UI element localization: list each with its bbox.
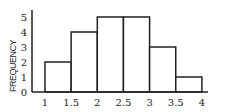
y-tick-label: 5 [21, 12, 27, 23]
x-tick-label: 1.5 [63, 97, 79, 108]
histogram-bar [45, 62, 71, 92]
y-tick-label: 4 [21, 27, 27, 38]
x-tick-label: 2.5 [115, 97, 131, 108]
y-tick-labels: 012345 [21, 12, 27, 98]
x-tick-labels: 11.522.533.54 [42, 97, 205, 108]
y-tick-label: 2 [21, 57, 27, 68]
histogram-bar [123, 17, 149, 92]
y-tick-label: 1 [21, 72, 27, 83]
x-tick-label: 4 [199, 97, 205, 108]
x-tick-label: 3.5 [168, 97, 184, 108]
y-tick-label: 3 [21, 42, 27, 53]
histogram-chart: 012345 11.522.533.54 FREQUENCY [0, 0, 226, 112]
x-tick-label: 3 [146, 97, 152, 108]
histogram-bar [176, 77, 202, 92]
bars [45, 17, 202, 92]
y-axis-label: FREQUENCY [8, 39, 18, 92]
x-tick-label: 1 [42, 97, 48, 108]
y-tick-label: 0 [21, 87, 27, 98]
histogram-bar [150, 47, 176, 92]
histogram-bar [71, 32, 97, 92]
x-tick-label: 2 [94, 97, 100, 108]
histogram-bar [97, 17, 123, 92]
